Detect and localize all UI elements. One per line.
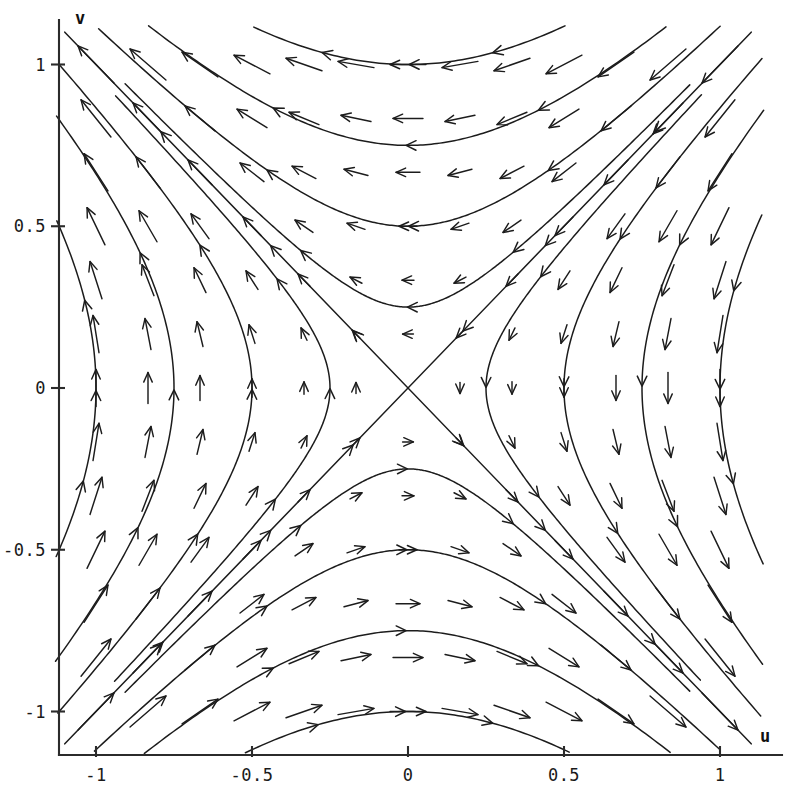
field-arrow-shaft [81,639,111,676]
field-arrow-shaft [237,109,267,128]
x-tick-label: 0 [403,765,414,785]
field-arrow-head [257,648,267,657]
field-arrow-shaft [84,154,108,191]
trajectory-arrow-head [548,161,559,171]
field-arrow-head [561,495,570,505]
field-arrow-shaft [659,211,677,242]
trajectory-curve [125,469,690,692]
trajectory-curve [486,95,701,680]
field-arrow-head [558,279,567,289]
field-arrow-head [246,271,255,281]
field-arrow-shaft [494,705,530,717]
y-tick-label: -1 [25,702,46,722]
x-tick-label: -1 [85,765,106,785]
field-arrow-shaft [292,166,316,178]
trajectory-arrow-head [256,606,267,616]
field-arrow-shaft [610,483,622,508]
x-tick-label: 0.5 [548,765,580,785]
trajectory-curve [125,84,690,307]
field-arrow-shaft [708,154,732,191]
trajectory-arrow-head [200,245,209,256]
field-arrow-shaft [494,58,530,70]
field-arrow-shaft [237,648,267,667]
trajectory-curve [56,116,174,661]
y-tick-label: 0 [35,378,46,398]
field-arrow-shaft [714,477,726,514]
y-tick-label: 0.5 [14,216,46,236]
field-arrow-shaft [182,699,218,724]
y-tick-label: -0.5 [3,540,46,560]
field-arrow-shaft [714,262,726,299]
trajectory-curve [642,110,764,664]
field-arrow-shaft [130,49,166,80]
field-arrow-shaft [598,52,634,77]
field-arrow-shaft [659,534,677,565]
trajectory-arrow-head [188,534,197,545]
field-arrow-shaft [711,208,729,245]
field-arrow-head [659,231,668,241]
field-arrow-shaft [650,696,686,727]
field-arrow-shaft [234,55,270,74]
field-arrow-shaft [546,702,582,721]
field-arrow-head [511,547,521,556]
field-arrow-shaft [130,696,166,727]
separatrix-layer [65,32,751,744]
field-arrow-shaft [500,166,524,178]
field-arrow-shaft [90,477,102,514]
field-arrow-head [549,119,559,128]
field-arrow-shaft [87,208,105,245]
field-arrow-shaft [546,55,582,74]
field-arrow-shaft [708,585,732,622]
field-arrow-head [249,487,258,497]
field-arrow-shaft [549,648,579,667]
field-arrow-shaft [549,109,579,128]
field-arrow-head [668,555,677,565]
y-axis-label: v [75,8,85,28]
field-arrow-shaft [650,49,686,80]
field-arrow-shaft [500,597,524,609]
trajectory-arrow-head [608,522,617,533]
y-tick-label: 1 [35,55,46,75]
field-arrow-shaft [286,705,322,717]
field-arrow-head [237,109,247,118]
field-arrow-shaft [234,702,270,721]
field-arrow-shaft [194,483,206,508]
field-arrow-shaft [292,597,316,609]
trajectory-curve [115,96,330,681]
field-arrow-head [303,544,313,553]
field-arrow-shaft [194,268,206,293]
trajectory-arrow-head [620,228,629,239]
trajectory-curve [564,59,762,716]
field-arrow-shaft [598,699,634,724]
trajectory-curve [254,26,565,65]
phase-portrait-canvas: -1-0.500.5110.50-0.5-1 u v [0,0,789,793]
field-arrow-head [139,211,148,221]
trajectory-arrow-head [535,594,546,604]
field-arrow-shaft [84,585,108,622]
field-arrow-shaft [705,639,735,676]
field-arrow-shaft [182,52,218,77]
field-arrow-shaft [139,211,157,242]
phase-portrait-figure: -1-0.500.5110.50-0.5-1 u v [0,0,789,793]
x-tick-label: -0.5 [231,765,274,785]
field-arrow-head [148,534,157,544]
field-arrow-shaft [87,531,105,568]
trajectory-curve [144,631,670,754]
trajectory-arrow-head [267,170,278,180]
field-arrow-shaft [610,268,622,293]
x-axis-label: u [760,726,770,746]
field-arrow-shaft [286,58,322,70]
field-arrow-shaft [90,262,102,299]
trajectory-curve [149,26,666,146]
field-arrow-shaft [705,100,735,137]
field-arrow-shaft [711,531,729,568]
field-arrow-head [503,223,513,232]
x-tick-label: 1 [715,765,726,785]
field-arrow-head [569,658,579,667]
field-arrow-shaft [139,534,157,565]
field-arrow-shaft [81,100,111,137]
field-arrow-head [295,220,305,229]
